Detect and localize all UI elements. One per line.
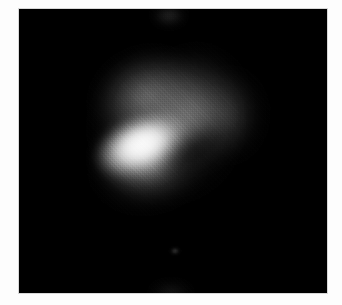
outer-halo-region [53,13,278,238]
bottom-edge-flare [145,281,197,293]
corner-vignette [19,9,327,293]
core-halo-region [69,84,217,212]
eastern-extension-region [193,58,284,174]
southern-lobe-region [74,107,227,240]
northwest-lobe-region [56,12,223,169]
top-edge-flare [149,9,189,25]
image-plate [19,9,327,293]
core-peak-region [106,114,178,173]
figure-root: Monochrome astronomical exposure showing… [0,0,342,305]
lobe-bridge-region [120,64,246,190]
eastern-lobe-region [129,31,279,198]
film-grain-texture [19,9,327,293]
dark-lane-region [143,105,247,197]
film-grain-texture-secondary [19,9,327,293]
field-star-source [169,247,181,255]
bright-core-region [83,97,200,192]
